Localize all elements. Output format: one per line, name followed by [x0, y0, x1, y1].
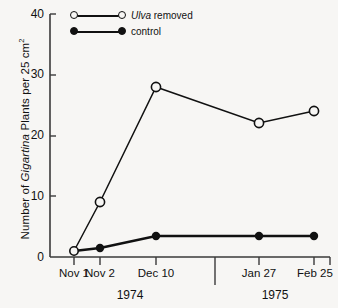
- legend-item-ulva-removed: Ulva removed: [70, 10, 193, 21]
- legend-label-ulva-removed: Ulva removed: [131, 10, 193, 21]
- data-point-control-dec-10: [152, 232, 160, 240]
- data-point-control-feb-25: [310, 232, 318, 240]
- legend-label-ulva-rest: removed: [151, 10, 193, 21]
- legend-label-control: control: [131, 26, 161, 37]
- legend-swatch-filled-circle: [70, 26, 126, 37]
- series-ulva-removed-line: [74, 87, 314, 251]
- data-point-ulva-removed-dec-10: [151, 82, 160, 91]
- legend-item-control: control: [70, 26, 161, 37]
- data-point-ulva-removed-nov-2: [95, 197, 104, 206]
- x-tick-label-nov-2: Nov 2: [70, 267, 130, 279]
- data-point-ulva-removed-jan-27: [254, 118, 263, 127]
- x-tick-label-feb-25: Feb 25: [284, 267, 338, 279]
- data-point-control-jan-27: [255, 232, 263, 240]
- data-point-ulva-removed-feb-25: [309, 106, 318, 115]
- data-point-control-nov-2: [96, 244, 104, 252]
- x-tick-label-jan-27: Jan 27: [228, 267, 290, 279]
- legend-swatch-open-circle: [70, 10, 126, 21]
- chart-plot-area: [0, 0, 338, 308]
- series-control-line: [74, 236, 314, 251]
- chart-figure: Number of Gigartina Plants per 25 cm2 40…: [0, 0, 338, 308]
- x-tick-label-dec-10: Dec 10: [125, 267, 187, 279]
- x-group-label-1974: 1974: [100, 288, 160, 302]
- x-group-label-1975: 1975: [245, 288, 305, 302]
- legend-label-ulva-italic: Ulva: [131, 10, 151, 21]
- data-point-ulva-removed-nov-1: [70, 247, 78, 255]
